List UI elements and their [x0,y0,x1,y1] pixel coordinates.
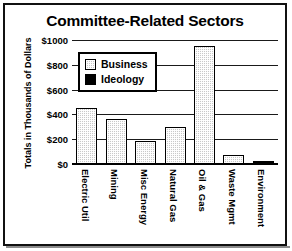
y-tick-label: $600 [10,84,68,95]
legend-item: Ideology [85,72,148,87]
x-tick-label: Mining [109,169,120,200]
x-tick-label: Electric Util [80,169,91,221]
bar-environment [253,161,274,164]
y-tick-label: $800 [10,59,68,70]
y-tick-label: $0 [10,159,68,170]
bar-mining [106,119,127,164]
legend-swatch-business [85,59,96,70]
y-tick-label: $1000 [10,35,68,46]
chart-figure: Committee-Related Sectors Totals in Thou… [0,0,292,251]
x-tick-label: Environment [256,169,267,227]
chart-legend: BusinessIdeology [78,52,157,92]
chart-title: Committee-Related Sectors [10,12,280,30]
legend-swatch-ideology [85,74,96,85]
x-tick-label: Oil & Gas [197,169,208,212]
figure-border-shadow [6,246,290,248]
bar-natural-gas [165,127,186,164]
bar-electric-util [76,108,97,164]
legend-label: Ideology [101,74,144,85]
y-tick-label: $200 [10,134,68,145]
bar-misc-energy [135,141,156,164]
x-tick-label: Natural Gas [168,169,179,222]
x-tick-label: Waste Mgmt [227,169,238,225]
bar-oil-gas [194,46,215,164]
y-axis-label: Totals in Thousands of Dollars [23,28,33,178]
y-tick-label: $400 [10,109,68,120]
legend-label: Business [101,59,148,70]
legend-item: Business [85,57,148,72]
bar-waste-mgmt [223,155,244,164]
x-tick-label: Misc Energy [139,169,150,225]
